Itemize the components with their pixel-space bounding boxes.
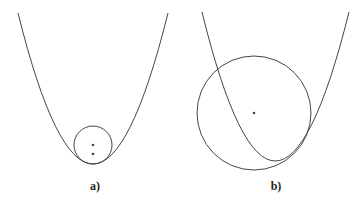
diagram-svg xyxy=(0,0,364,201)
point-a2 xyxy=(92,153,95,156)
parabola-a xyxy=(18,13,168,164)
parabola-b xyxy=(202,12,349,161)
diagram-canvas: a) b) xyxy=(0,0,364,201)
point-a1 xyxy=(92,144,95,147)
figure-b-label: b) xyxy=(271,179,282,194)
center-point-b xyxy=(253,112,256,115)
figure-a-label: a) xyxy=(90,179,100,194)
figure-a xyxy=(18,13,168,164)
figure-b xyxy=(197,12,349,170)
